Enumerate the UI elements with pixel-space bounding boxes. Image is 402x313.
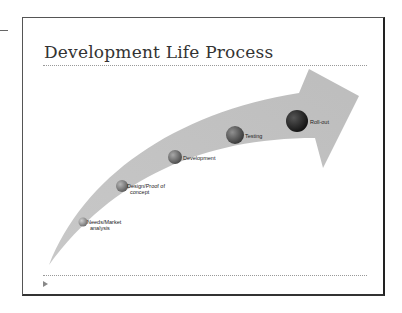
arrow-shape [49, 69, 359, 265]
step-3-label: Development [183, 155, 215, 161]
footer-divider [43, 275, 367, 276]
step-testing: Testing [245, 133, 262, 139]
step-5-bubble [286, 110, 308, 132]
left-margin-mark [0, 30, 8, 31]
step-roll-out: Roll-out [310, 119, 329, 125]
step-4-label: Testing [245, 133, 262, 139]
slide: Development Life Process Needs/Market an… [22, 17, 385, 296]
step-2-label-line2: concept [127, 189, 165, 195]
step-4-bubble [226, 126, 244, 144]
step-design-proof-of-concept: Design/Proof of concept [127, 183, 165, 195]
step-1-label-line2: analysis [87, 225, 121, 231]
step-3-bubble [168, 150, 182, 164]
step-development: Development [183, 155, 215, 161]
step-needs-market-analysis: Needs/Market analysis [87, 219, 121, 231]
step-5-label: Roll-out [310, 119, 329, 125]
play-triangle-icon[interactable] [43, 281, 48, 287]
